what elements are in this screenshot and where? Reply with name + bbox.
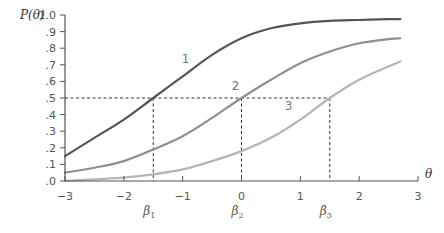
beta-label: β2 [230,204,243,220]
x-tick-label: 2 [356,190,363,203]
beta-label: β1 [142,204,155,220]
y-tick-label: .3 [46,125,57,138]
y-tick-label: .7 [46,59,57,72]
curve-label: 2 [232,79,240,93]
curve-2 [65,38,400,172]
y-tick-label: .5 [46,92,57,105]
y-tick-label: .9 [46,26,57,39]
y-tick-label: .0 [46,175,57,188]
y-tick-label: .8 [46,42,57,55]
y-tick-label: .6 [46,75,57,88]
labels: .0.1.2.3.4.5.6.7.8.91.0P(θ)−3−2−10123θβ1… [19,8,433,220]
curve-label: 3 [285,99,293,113]
curve-label: 1 [182,52,190,66]
x-tick-label: 1 [297,190,304,203]
beta-label: β3 [319,204,332,220]
y-tick-label: .1 [46,158,57,171]
y-axis-title: P(θ) [19,8,45,22]
x-tick-label: 0 [238,190,245,203]
x-tick-label: −2 [116,190,132,203]
x-axis-title: θ [425,167,433,181]
y-tick-label: .4 [46,109,57,122]
x-tick-label: −3 [57,190,73,203]
x-tick-label: −1 [175,190,191,203]
curves [65,19,400,181]
x-tick-label: 3 [415,190,422,203]
y-tick-label: .2 [46,142,57,155]
icc-chart: .0.1.2.3.4.5.6.7.8.91.0P(θ)−3−2−10123θβ1… [0,0,444,233]
